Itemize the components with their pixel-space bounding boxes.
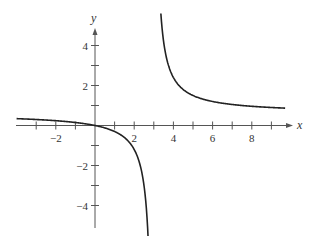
x-axis-arrow-icon bbox=[286, 123, 293, 128]
x-tick-label: 8 bbox=[249, 132, 255, 144]
y-tick-label: 2 bbox=[83, 80, 89, 92]
function-graph: −2246842−2−4 x y bbox=[0, 0, 312, 236]
curve-left-branch bbox=[17, 119, 149, 236]
y-axis-label: y bbox=[90, 11, 97, 25]
x-tick-label: 4 bbox=[171, 132, 177, 144]
curves bbox=[17, 14, 286, 237]
y-tick-label: 4 bbox=[83, 40, 89, 52]
y-axis-arrow-icon bbox=[93, 28, 98, 35]
x-tick-label: 2 bbox=[131, 132, 137, 144]
x-tick-label: −2 bbox=[50, 132, 62, 144]
x-axis-label: x bbox=[296, 118, 303, 132]
y-tick-label: −2 bbox=[76, 160, 88, 172]
curve-right-branch bbox=[161, 14, 285, 109]
x-tick-label: 6 bbox=[210, 132, 216, 144]
y-tick-label: −4 bbox=[76, 200, 88, 212]
